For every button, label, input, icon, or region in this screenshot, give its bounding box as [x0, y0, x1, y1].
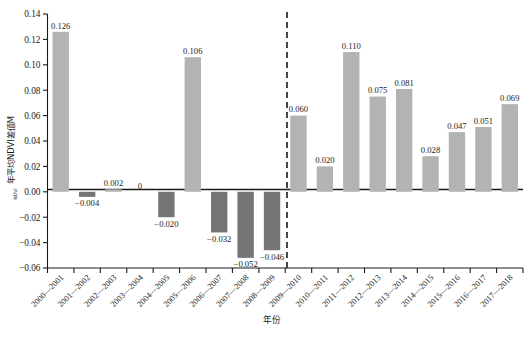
y-tick-label: 0.04 — [24, 136, 41, 146]
bar-value-label: −0.032 — [207, 234, 231, 244]
y-tick-label: 0.00 — [24, 187, 41, 197]
bar-value-label: 0.106 — [183, 46, 203, 56]
y-tick-label: 0.08 — [24, 86, 41, 96]
bar — [185, 57, 201, 192]
bar — [237, 192, 253, 258]
y-tick-label: −0.04 — [19, 238, 41, 248]
y-tick-label: 0.12 — [24, 35, 41, 45]
bar — [211, 192, 227, 233]
bar-value-label: 0.069 — [500, 93, 519, 103]
bar-value-label: 0 — [138, 181, 142, 191]
bar-value-label: −0.052 — [234, 259, 258, 269]
bar-value-label: 0.081 — [394, 78, 413, 88]
y-tick-label: −0.06 — [19, 263, 41, 273]
bar-value-label: 0.020 — [315, 155, 334, 165]
bar-value-label: 0.028 — [421, 145, 440, 155]
bar-value-label: 0.051 — [474, 116, 493, 126]
bar — [290, 116, 306, 192]
y-tick-label: 0.14 — [24, 9, 41, 19]
bar — [449, 132, 465, 192]
bar — [343, 52, 359, 192]
bar — [264, 192, 280, 250]
y-tick-label: 0.10 — [24, 60, 41, 70]
bar — [53, 32, 69, 192]
bar — [475, 127, 491, 192]
y-tick-label: 0.06 — [24, 111, 41, 121]
bar-value-label: 0.075 — [368, 85, 387, 95]
x-axis-title: 年份 — [263, 314, 281, 325]
bar-value-label: 0.047 — [447, 121, 467, 131]
bar-value-label: 0.060 — [289, 104, 308, 114]
ndvi-difference-bar-chart: 0.140.120.100.080.060.040.020.00−0.02−0.… — [0, 0, 530, 343]
bar-value-label: −0.046 — [260, 252, 285, 262]
bar — [158, 192, 174, 217]
y-tick-label: −0.02 — [19, 213, 41, 223]
bar — [422, 156, 438, 192]
bar — [502, 104, 518, 192]
y-axis-title-subscript: NDVI — [13, 188, 18, 199]
bar-value-label: −0.004 — [75, 198, 100, 208]
chart-svg: 0.140.120.100.080.060.040.020.00−0.02−0.… — [0, 0, 530, 343]
bar — [79, 192, 95, 197]
bar-value-label: 0.126 — [51, 21, 71, 31]
bar — [396, 89, 412, 192]
bar-value-label: 0.110 — [342, 41, 361, 51]
bar — [105, 189, 121, 192]
bar — [317, 166, 333, 191]
bar — [370, 97, 386, 192]
bar-value-label: −0.020 — [154, 219, 178, 229]
bar-value-label: 0.002 — [104, 178, 123, 188]
y-tick-label: 0.02 — [24, 162, 41, 172]
y-axis-title-main: 年平均NDVI差值M — [6, 116, 16, 184]
